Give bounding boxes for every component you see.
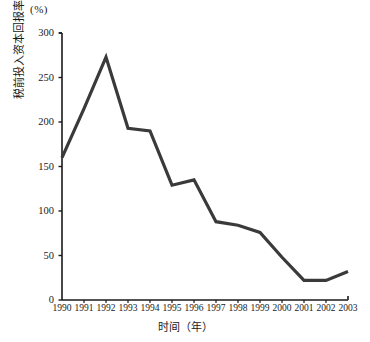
chart-container: (%) 税前投入资本回报率 050100150200250300 1990199… [0, 0, 370, 342]
x-axis-title: 时间（年） [0, 322, 370, 333]
axes [59, 33, 348, 300]
data-series-line [62, 57, 348, 280]
plot-area [0, 0, 370, 342]
